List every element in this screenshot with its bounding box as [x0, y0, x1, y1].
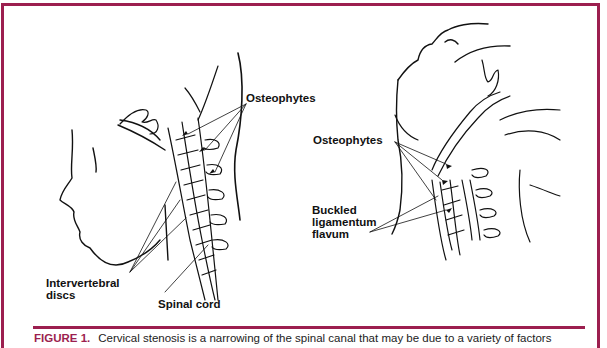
figure-caption: FIGURE 1.Cervical stenosis is a narrowin… [34, 332, 551, 344]
caption-label: FIGURE 1. [34, 332, 90, 344]
caption-rule [33, 326, 585, 329]
left-neck-back [235, 53, 242, 220]
right-leader-lines [370, 142, 446, 232]
caption-text: Cervical stenosis is a narrowing of the … [98, 332, 551, 344]
left-spine [168, 118, 228, 300]
label-buckled-line2: ligamentum [312, 216, 377, 228]
label-intervertebral-discs-line2: discs [46, 289, 75, 301]
label-buckled-line3: flavum [312, 228, 349, 240]
left-head-profile [60, 120, 168, 265]
label-intervertebral-discs-line1: Intervertebral [46, 277, 120, 289]
label-osteophytes-right: Osteophytes [313, 134, 383, 146]
label-buckled-line1: Buckled [312, 204, 357, 216]
label-spinal-cord: Spinal cord [158, 298, 221, 310]
right-spine [432, 92, 560, 260]
right-ear [482, 60, 499, 96]
left-ear [120, 110, 158, 134]
right-jaw [395, 115, 418, 140]
left-leader-lines [130, 104, 246, 292]
label-osteophytes-left: Osteophytes [246, 92, 316, 104]
